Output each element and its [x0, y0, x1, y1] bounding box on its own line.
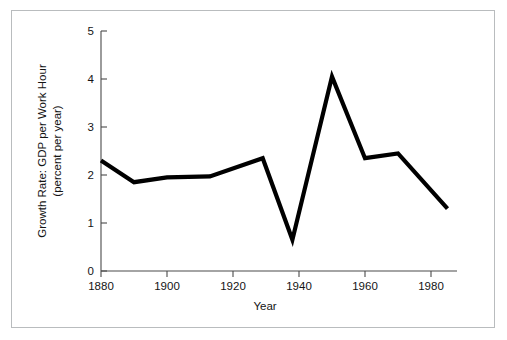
y-tick-label-2: 2	[88, 169, 94, 181]
x-tick-label-1900: 1900	[154, 280, 180, 292]
line-chart: 0 1 2 3 4 5 1880 1900 1920 1940 1960 198…	[0, 0, 507, 340]
y-tick-label-3: 3	[88, 121, 94, 133]
x-tick-label-1880: 1880	[88, 280, 114, 292]
x-tick-label-1940: 1940	[286, 280, 312, 292]
chart-svg: 0 1 2 3 4 5 1880 1900 1920 1940 1960 198…	[0, 0, 507, 340]
y-tick-label-0: 0	[88, 265, 94, 277]
x-tick-label-1980: 1980	[418, 280, 444, 292]
x-axis-title: Year	[253, 300, 276, 312]
y-axis-ticks	[101, 31, 107, 271]
y-axis-title-line1: Growth Rate: GDP per Work Hour	[36, 64, 48, 238]
y-tick-label-1: 1	[88, 217, 94, 229]
x-axis-ticks	[101, 271, 431, 277]
y-tick-label-5: 5	[88, 25, 94, 37]
y-axis-title-line2: (percent per year)	[51, 105, 63, 197]
y-tick-label-4: 4	[88, 73, 95, 85]
data-series-line	[101, 77, 448, 240]
x-tick-label-1920: 1920	[220, 280, 246, 292]
x-tick-label-1960: 1960	[352, 280, 378, 292]
